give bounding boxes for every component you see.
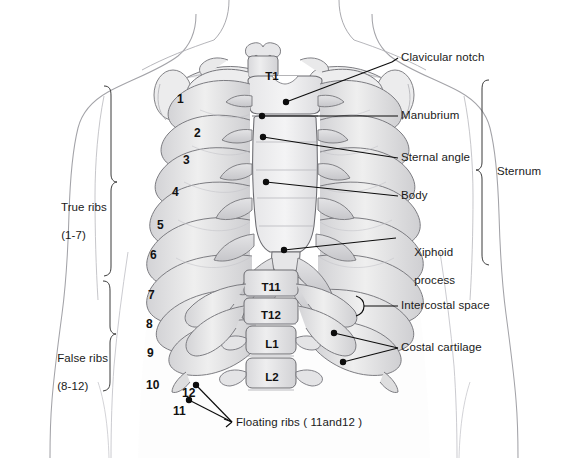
- label-true-ribs-line2: (1-7): [61, 229, 86, 241]
- label-xiphoid-process: Xiphoid process: [401, 231, 455, 301]
- label-sternal-angle: Sternal angle: [401, 151, 470, 165]
- label-sternum: Sternum: [497, 165, 541, 179]
- vertebra-label-T12: T12: [248, 309, 294, 321]
- rib-number-6: 6: [150, 248, 157, 262]
- label-true-ribs-line1: True ribs: [61, 201, 107, 213]
- vertebra-label-L2: L2: [253, 371, 291, 383]
- rib-number-12: 12: [182, 386, 195, 400]
- rib-number-11: 11: [173, 404, 186, 418]
- sternum-bracket: [476, 80, 489, 265]
- rib-number-10: 10: [146, 378, 159, 392]
- rib-cage-diagram: Clavicular notch Manubrium Sternal angle…: [0, 0, 570, 458]
- vertebra-label-T1: T1: [254, 70, 290, 82]
- rib-number-7: 7: [148, 288, 155, 302]
- label-manubrium: Manubrium: [401, 109, 459, 123]
- label-clavicular-notch: Clavicular notch: [401, 51, 484, 65]
- label-floating-ribs: Floating ribs ( 11and12 ): [236, 416, 362, 430]
- label-false-ribs-line2: (8-12): [57, 380, 88, 392]
- vertebra-label-L1: L1: [253, 338, 291, 350]
- vertebra-label-T11: T11: [248, 281, 294, 293]
- label-intercostal-space: Intercostal space: [401, 299, 490, 313]
- label-true-ribs: True ribs (1-7): [48, 186, 107, 256]
- rib-number-1: 1: [177, 92, 184, 106]
- rib-number-3: 3: [183, 153, 190, 167]
- label-false-ribs-line1: False ribs: [57, 352, 108, 364]
- rib-number-5: 5: [157, 218, 164, 232]
- label-costal-cartilage: Costal cartilage: [401, 341, 482, 355]
- rib-number-9: 9: [147, 346, 154, 360]
- label-false-ribs: False ribs (8-12): [44, 337, 108, 407]
- rib-number-2: 2: [194, 126, 201, 140]
- rib-number-8: 8: [146, 317, 153, 331]
- label-xiphoid-process-line2: process: [414, 274, 455, 286]
- rib-number-4: 4: [172, 185, 179, 199]
- label-body: Body: [401, 189, 428, 203]
- label-xiphoid-process-line1: Xiphoid: [414, 246, 453, 258]
